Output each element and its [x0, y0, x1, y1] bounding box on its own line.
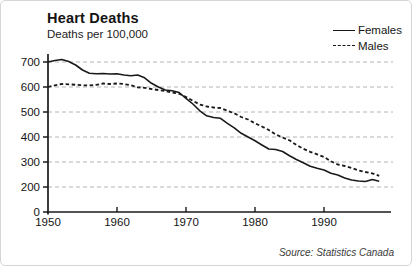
y-tick-label: 500 [21, 106, 40, 118]
y-tick-label: 400 [21, 131, 40, 143]
solid-line-swatch [333, 30, 355, 31]
y-tick-label: 600 [21, 81, 40, 93]
y-tick-label: 700 [21, 56, 40, 68]
x-tick-label: 1950 [35, 216, 61, 228]
y-tick-label: 300 [21, 156, 40, 168]
legend-label-females: Females [358, 24, 402, 37]
legend-item-females: Females [333, 24, 402, 37]
x-tick-label: 1960 [104, 216, 130, 228]
legend-item-males: Males [333, 40, 402, 53]
x-tick-label: 1990 [311, 216, 337, 228]
dashed-line-swatch [333, 45, 355, 46]
y-tick-label: 200 [21, 181, 40, 193]
legend: Females Males [333, 24, 402, 52]
legend-label-males: Males [358, 40, 389, 53]
source-note: Source: Statistics Canada [279, 247, 394, 258]
x-tick-label: 1970 [173, 216, 199, 228]
page-subtitle: Deaths per 100,000 [47, 28, 148, 40]
page-title: Heart Deaths [47, 10, 139, 26]
series-line-females [48, 60, 379, 182]
x-tick-label: 1980 [242, 216, 268, 228]
chart-card: 700600500400300200019501960197019801990 … [0, 0, 412, 266]
